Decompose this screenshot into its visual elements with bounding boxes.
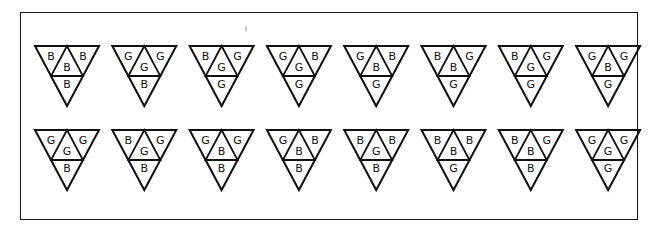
cell-letter-left: B xyxy=(47,50,55,63)
cell-letter-bottom: G xyxy=(604,162,613,175)
cell-letter-right: B xyxy=(388,50,396,63)
cell-letter-right: G xyxy=(156,50,165,63)
cell-letter-right: G xyxy=(543,134,552,147)
cell-letter-right: B xyxy=(466,134,474,147)
cell-letter-left: B xyxy=(511,134,519,147)
cell-letter-center: B xyxy=(218,145,226,158)
subdivided-triangle: GBBB xyxy=(267,130,331,190)
cell-letter-left: G xyxy=(588,134,597,147)
triangle-row: BBBBGGGBBGGGGGBGGBBGBBGGBGGGGBGG xyxy=(35,46,640,106)
cell-letter-right: G xyxy=(620,134,629,147)
cell-letter-right: G xyxy=(233,134,242,147)
subdivided-triangle: GGGB xyxy=(112,46,176,106)
cell-letter-center: B xyxy=(372,61,380,74)
cell-letter-bottom: B xyxy=(63,78,71,91)
subdivided-triangle: GGGG xyxy=(576,130,640,190)
cell-letter-left: G xyxy=(279,50,288,63)
triangle-diagram: BBBBGGGBBGGGGGBGGBBGBBGGBGGGGBGGGGGBBGGB… xyxy=(0,0,663,228)
cell-letter-center: B xyxy=(295,145,303,158)
cell-letter-left: G xyxy=(124,50,133,63)
cell-letter-right: B xyxy=(79,50,87,63)
cell-letter-left: G xyxy=(356,50,365,63)
cell-letter-bottom: B xyxy=(527,162,535,175)
cell-letter-center: G xyxy=(140,145,149,158)
cell-letter-center: G xyxy=(217,61,226,74)
cell-letter-right: G xyxy=(620,50,629,63)
subdivided-triangle: BGGB xyxy=(112,130,176,190)
subdivided-triangle: GGBG xyxy=(267,46,331,106)
cell-letter-left: B xyxy=(511,50,519,63)
cell-letter-left: G xyxy=(201,134,210,147)
subdivided-triangle: BGGG xyxy=(190,46,254,106)
cell-letter-bottom: B xyxy=(295,162,303,175)
cell-letter-bottom: B xyxy=(372,162,380,175)
subdivided-triangle: GGGB xyxy=(35,130,99,190)
triangle-rows: BBBBGGGBBGGGGGBGGBBGBBGGBGGGGBGGGGGBBGGB… xyxy=(35,46,640,190)
cell-letter-bottom: B xyxy=(141,162,149,175)
scan-smudge xyxy=(245,26,247,32)
cell-letter-bottom: B xyxy=(63,162,71,175)
cell-letter-bottom: G xyxy=(604,78,613,91)
cell-letter-left: B xyxy=(434,50,442,63)
cell-letter-bottom: G xyxy=(449,162,458,175)
subdivided-triangle: BBGB xyxy=(499,130,563,190)
triangle-row: GGGBBGGBGBGBGBBBBGBBBBBGBBGBGGGG xyxy=(35,130,640,190)
cell-letter-center: B xyxy=(63,61,71,74)
cell-letter-center: G xyxy=(63,145,72,158)
cell-letter-left: G xyxy=(47,134,56,147)
cell-letter-right: G xyxy=(156,134,165,147)
cell-letter-center: B xyxy=(527,145,535,158)
subdivided-triangle: GBGB xyxy=(190,130,254,190)
subdivided-triangle: BBBG xyxy=(422,130,486,190)
cell-letter-center: G xyxy=(140,61,149,74)
cell-letter-center: G xyxy=(295,61,304,74)
cell-letter-right: B xyxy=(311,50,319,63)
subdivided-triangle: BGGG xyxy=(499,46,563,106)
subdivided-triangle: BBGG xyxy=(422,46,486,106)
cell-letter-center: B xyxy=(450,61,458,74)
cell-letter-left: G xyxy=(588,50,597,63)
cell-letter-left: B xyxy=(434,134,442,147)
cell-letter-bottom: G xyxy=(295,78,304,91)
cell-letter-bottom: B xyxy=(141,78,149,91)
subdivided-triangle: BGBB xyxy=(344,130,408,190)
cell-letter-left: B xyxy=(202,50,210,63)
cell-letter-right: G xyxy=(79,134,88,147)
subdivided-triangle: BBBB xyxy=(35,46,99,106)
cell-letter-center: B xyxy=(604,61,612,74)
cell-letter-bottom: B xyxy=(218,162,226,175)
cell-letter-right: G xyxy=(233,50,242,63)
cell-letter-right: G xyxy=(465,50,474,63)
cell-letter-bottom: G xyxy=(372,78,381,91)
cell-letter-center: G xyxy=(604,145,613,158)
subdivided-triangle: GBGG xyxy=(576,46,640,106)
cell-letter-right: B xyxy=(311,134,319,147)
cell-letter-bottom: G xyxy=(527,78,536,91)
cell-letter-bottom: G xyxy=(449,78,458,91)
cell-letter-left: B xyxy=(356,134,364,147)
cell-letter-left: G xyxy=(279,134,288,147)
cell-letter-bottom: G xyxy=(217,78,226,91)
cell-letter-left: B xyxy=(125,134,133,147)
cell-letter-center: G xyxy=(527,61,536,74)
cell-letter-center: B xyxy=(450,145,458,158)
cell-letter-center: G xyxy=(372,145,381,158)
cell-letter-right: B xyxy=(388,134,396,147)
subdivided-triangle: GBBG xyxy=(344,46,408,106)
cell-letter-right: G xyxy=(543,50,552,63)
